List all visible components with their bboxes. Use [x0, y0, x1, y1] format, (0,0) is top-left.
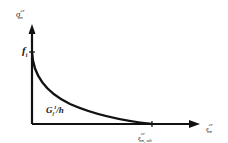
x-axis-arrow-icon — [189, 120, 200, 128]
fracture-energy-label: GfI/h — [46, 106, 64, 115]
y-axis-arrow-icon — [29, 24, 36, 34]
ultimate-strain-label: εcrnn, ult — [138, 127, 158, 143]
y-axis-label: σcrnn — [16, 4, 30, 20]
softening-diagram — [0, 0, 228, 143]
tensile-strength-label: ft — [22, 45, 27, 56]
x-axis-label: εcrnn — [206, 118, 218, 134]
